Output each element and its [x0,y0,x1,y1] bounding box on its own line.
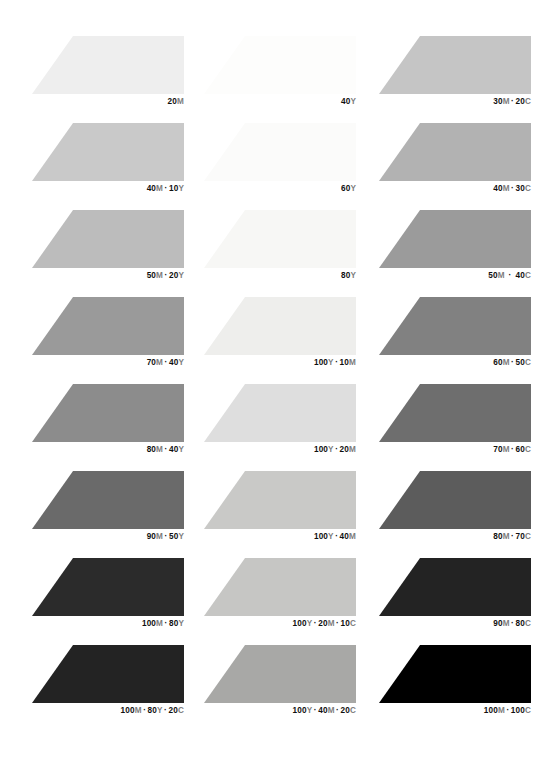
label-part-num: 100 [314,445,328,454]
swatch-cell: 40M·30C [379,123,531,205]
label-part-ink: M [177,97,184,106]
label-part-ink: M [503,184,510,193]
label-part-num: 70 [147,358,156,367]
label-part-ink: M [498,706,505,715]
swatch-cell: 100M·80Y [32,558,184,640]
label-part-ink: M [156,619,163,628]
swatch-cell: 90M·50Y [32,471,184,553]
label-part-num: 90 [493,619,502,628]
label-part-num: 100 [293,706,307,715]
swatch-cell: 100Y·20M·10C [204,558,356,640]
swatch-cell: 80M·70C [379,471,531,553]
label-part-num: 40 [169,358,178,367]
color-swatch [204,210,356,268]
label-part-num: 80 [493,532,502,541]
color-swatch [379,210,531,268]
swatch-label: 80Y [204,270,356,281]
swatch-label: 80M·70C [379,531,531,542]
color-swatch [32,471,184,529]
label-part-num: 40 [147,184,156,193]
label-part-num: 60 [493,358,502,367]
label-part-num: 80 [148,706,157,715]
label-part-num: 10 [169,184,178,193]
label-part-num: 40 [516,271,525,280]
label-part-ink: M [156,358,163,367]
swatch-label: 30M·20C [379,96,531,107]
label-part-ink: C [178,706,184,715]
label-part-ink: C [525,445,531,454]
label-part-ink: M [503,97,510,106]
label-part-ink: C [525,532,531,541]
swatch-label: 100Y·40M·20C [204,705,356,716]
swatch-cell: 100Y·20M [204,384,356,466]
swatch-cell: 70M·40Y [32,297,184,379]
label-part-ink: M [328,619,335,628]
label-part-num: 100 [121,706,135,715]
label-part-num: 50 [169,532,178,541]
label-part-num: 10 [341,619,350,628]
label-part-num: 50 [488,271,497,280]
color-swatch [379,36,531,94]
label-part-num: 80 [516,619,525,628]
label-part-ink: M [349,358,356,367]
swatch-label: 50M·20Y [32,270,184,281]
swatch-cell: 60M·50C [379,297,531,379]
label-part-ink: C [525,358,531,367]
label-part-num: 20 [169,271,178,280]
swatch-cell: 70M·60C [379,384,531,466]
swatch-label: 40Y [204,96,356,107]
color-swatch [379,297,531,355]
label-part-num: 80 [169,619,178,628]
label-part-num: 20 [341,706,350,715]
label-part-ink: Y [178,358,184,367]
label-part-num: 20 [169,706,178,715]
swatch-label: 70M·40Y [32,357,184,368]
swatch-label: 40M·10Y [32,183,184,194]
label-part-num: 50 [147,271,156,280]
swatch-cell: 80M·40Y [32,384,184,466]
swatch-cell: 100Y·40M·20C [204,645,356,727]
swatch-cell: 100Y·40M [204,471,356,553]
label-part-ink: M [503,358,510,367]
label-part-num: 100 [142,619,156,628]
color-swatch [379,384,531,442]
label-part-ink: M [135,706,142,715]
label-part-ink: M [156,445,163,454]
color-swatch [32,210,184,268]
label-part-ink: C [525,619,531,628]
label-part-ink: Y [350,184,356,193]
color-swatch [32,36,184,94]
swatch-cell: 40M·10Y [32,123,184,205]
label-part-num: 60 [341,184,350,193]
label-part-ink: M [503,532,510,541]
color-swatch [32,645,184,703]
color-swatch [204,558,356,616]
label-part-num: 100 [314,532,328,541]
color-swatch [204,384,356,442]
label-part-num: 40 [318,706,327,715]
label-part-sep: · [505,271,516,280]
label-part-num: 20 [340,445,349,454]
label-part-ink: M [328,706,335,715]
label-part-ink: Y [350,271,356,280]
swatch-label: 100M·80Y [32,618,184,629]
label-part-num: 40 [340,532,349,541]
label-part-ink: M [349,532,356,541]
color-swatch [32,384,184,442]
label-part-ink: Y [178,184,184,193]
swatch-label: 100Y·40M [204,531,356,542]
label-part-num: 90 [147,532,156,541]
label-part-ink: C [525,97,531,106]
label-part-ink: M [349,445,356,454]
swatch-label: 100Y·20M·10C [204,618,356,629]
label-part-ink: Y [328,358,334,367]
swatch-label: 100M·80Y·20C [32,705,184,716]
swatch-cell: 100Y·10M [204,297,356,379]
label-part-ink: M [156,271,163,280]
label-part-ink: C [350,706,356,715]
color-swatch [204,123,356,181]
swatch-cell: 20M [32,36,184,118]
label-part-ink: Y [178,532,184,541]
label-part-num: 10 [340,358,349,367]
swatch-cell: 30M·20C [379,36,531,118]
